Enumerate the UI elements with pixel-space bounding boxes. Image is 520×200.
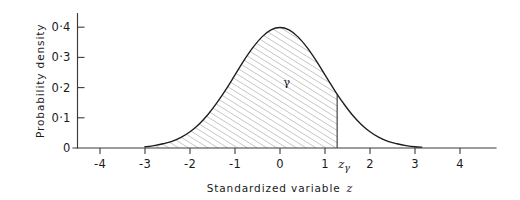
x-tick-label-1: 1 [321,157,329,171]
x-axis-ticks [100,148,460,154]
x-tick-label-0: 0 [276,157,284,171]
cutoff-axis-label-z-gamma: zγ [337,157,350,173]
x-tick-label--1: -1 [229,157,241,171]
x-tick-label-3: 3 [411,157,419,171]
y-axis-ticks [78,27,85,118]
y-tick-labels: 00·10·20·30·4 [52,20,71,155]
x-tick-label--2: -2 [184,157,196,171]
y-tick-label-0.2: 0·2 [52,81,71,95]
normal-distribution-chart: -4-3-2-101234 00·10·20·30·4 γ zγ Standar… [0,0,520,200]
y-axis-title: Probability density [34,24,46,138]
y-tick-label-0: 0 [63,141,71,155]
x-tick-label-4: 4 [456,157,464,171]
x-tick-label--4: -4 [94,157,106,171]
x-tick-label-2: 2 [366,157,374,171]
chart-figure: -4-3-2-101234 00·10·20·30·4 γ zγ Standar… [0,0,520,200]
x-axis-title: Standardized variablez [207,182,354,195]
y-tick-label-0.1: 0·1 [52,111,71,125]
y-tick-label-0.4: 0·4 [52,20,71,34]
x-tick-labels: -4-3-2-101234 [94,157,464,171]
x-axis-title-variable: z [346,182,354,195]
y-tick-label-0.3: 0·3 [52,50,71,64]
cutoff-label-subscript: γ [344,162,350,173]
shaded-area-gamma [145,28,337,149]
area-label-gamma: γ [283,75,290,89]
x-tick-label--3: -3 [139,157,151,171]
x-axis-title-text: Standardized variable [207,182,341,194]
